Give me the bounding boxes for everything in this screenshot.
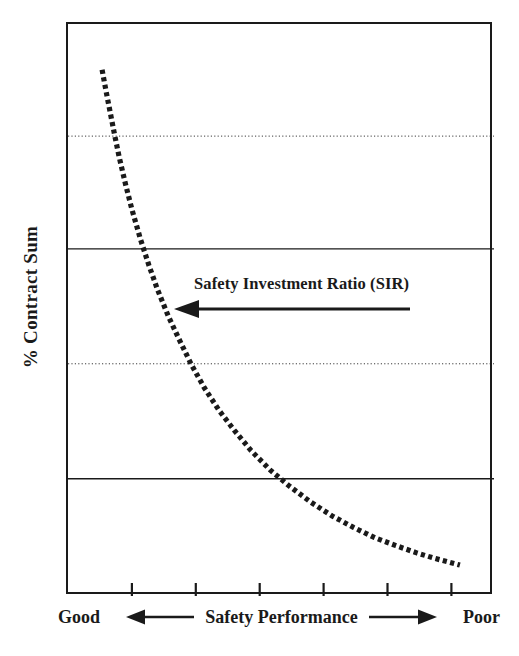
chart-figure: % Contract Sum Safety Investment Ratio (… xyxy=(0,0,519,656)
y-axis-label-container: % Contract Sum xyxy=(0,0,62,594)
x-axis-ticks-group xyxy=(132,583,452,596)
plot-canvas xyxy=(68,24,494,596)
x-axis-caption: Good Safety Performance Poor xyxy=(58,600,500,634)
plot-area xyxy=(66,22,492,594)
arrow-right-icon xyxy=(367,608,439,626)
x-axis-left-label: Good xyxy=(58,607,100,628)
x-axis-center-group: Safety Performance xyxy=(124,607,438,628)
gridlines-group xyxy=(68,136,494,479)
y-axis-label: % Contract Sum xyxy=(20,226,42,368)
data-curve-sir xyxy=(102,70,460,565)
arrow-left-icon xyxy=(124,608,196,626)
x-axis-center-label: Safety Performance xyxy=(205,607,357,628)
series-line-0 xyxy=(102,70,460,565)
x-axis-right-label: Poor xyxy=(463,607,500,628)
